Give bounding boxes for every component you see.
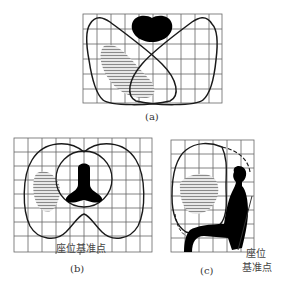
caption-c: (c) xyxy=(200,265,213,276)
seat-reference-label-b: 座位基准点 xyxy=(56,240,106,255)
caption-b: (b) xyxy=(70,263,84,274)
dashed-envelope-lower-c xyxy=(175,214,186,236)
seat-reference-label-c-line2: 基准点 xyxy=(242,259,272,274)
caption-a: (a) xyxy=(145,111,159,122)
human-front-silhouette-b xyxy=(66,164,102,203)
panel-b xyxy=(14,138,152,255)
panel-c xyxy=(171,140,254,252)
head-silhouette-a xyxy=(132,16,173,42)
seat-reference-label-c-line1: 座位 xyxy=(246,245,266,260)
panel-a xyxy=(83,14,222,105)
hatched-region-c xyxy=(180,174,219,214)
hatched-region-a xyxy=(101,45,155,98)
